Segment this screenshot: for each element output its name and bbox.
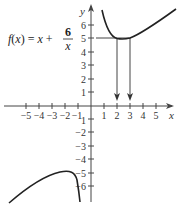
y-tick-label: 1 <box>81 87 86 98</box>
x-tick-label: −2 <box>60 110 71 121</box>
y-tick-label: 3 <box>81 60 86 71</box>
y-tick-label: 5 <box>81 33 86 44</box>
formula-denominator: x <box>64 39 71 53</box>
formula-numerator: 6 <box>65 25 71 39</box>
y-tick-label: −4 <box>75 154 86 165</box>
graph: −5 −4 −3 −2 −1 1 2 3 4 5 x 1 2 3 4 5 6 y… <box>0 0 180 213</box>
x-tick-label: 1 <box>102 110 107 121</box>
y-tick-label: 2 <box>81 74 86 85</box>
curve-right-branch <box>102 9 176 39</box>
curve-left-branch <box>9 171 80 203</box>
y-tick-label: −2 <box>75 127 86 138</box>
y-tick-label: 4 <box>81 47 86 58</box>
x-tick-label: −4 <box>34 110 45 121</box>
y-axis-label: y <box>79 5 85 17</box>
formula-lhs: f(x) = x + <box>8 32 53 46</box>
x-tick-label: 3 <box>128 110 133 121</box>
x-axis-label: x <box>168 109 174 121</box>
x-tick-label: 2 <box>115 110 120 121</box>
x-tick-label: −5 <box>21 110 32 121</box>
y-tick-label: 6 <box>81 20 86 31</box>
x-tick-label: 4 <box>141 110 146 121</box>
x-tick-label: −3 <box>47 110 58 121</box>
y-tick-label: −3 <box>75 141 86 152</box>
y-tick-label: 1 <box>81 115 86 126</box>
x-tick-label: 5 <box>154 110 159 121</box>
